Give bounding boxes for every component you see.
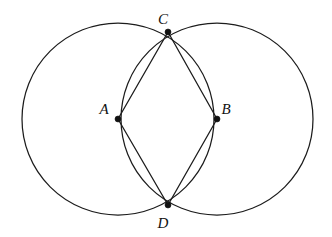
vertex-dot-A xyxy=(115,116,121,122)
diagram-canvas: A B C D xyxy=(0,0,332,237)
point-label-B: B xyxy=(221,101,230,117)
point-label-D: D xyxy=(157,215,169,231)
geometry-figure: A B C D xyxy=(0,0,332,237)
vertex-dot-B xyxy=(214,116,220,122)
segment-C-B xyxy=(168,32,217,119)
segment-D-A xyxy=(118,119,168,205)
point-label-A: A xyxy=(98,101,109,117)
segment-B-D xyxy=(168,119,217,205)
vertex-dot-C xyxy=(165,29,171,35)
vertex-dot-D xyxy=(165,202,171,208)
point-label-C: C xyxy=(158,11,169,27)
segment-A-C xyxy=(118,32,168,119)
